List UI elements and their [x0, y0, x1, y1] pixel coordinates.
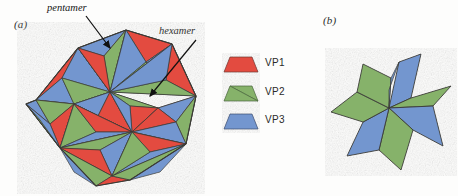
capsid-icosahedron: [26, 30, 196, 186]
figure-container: (a) (b) pentamer hexamer VP1 VP2 VP3: [0, 0, 458, 196]
legend-swatch-vp1: [224, 57, 258, 72]
figure-vector-layer: [0, 0, 458, 196]
legend-swatches: [224, 57, 258, 129]
legend-swatch-vp3: [224, 114, 258, 129]
pinwheel-rosette: [331, 54, 451, 170]
